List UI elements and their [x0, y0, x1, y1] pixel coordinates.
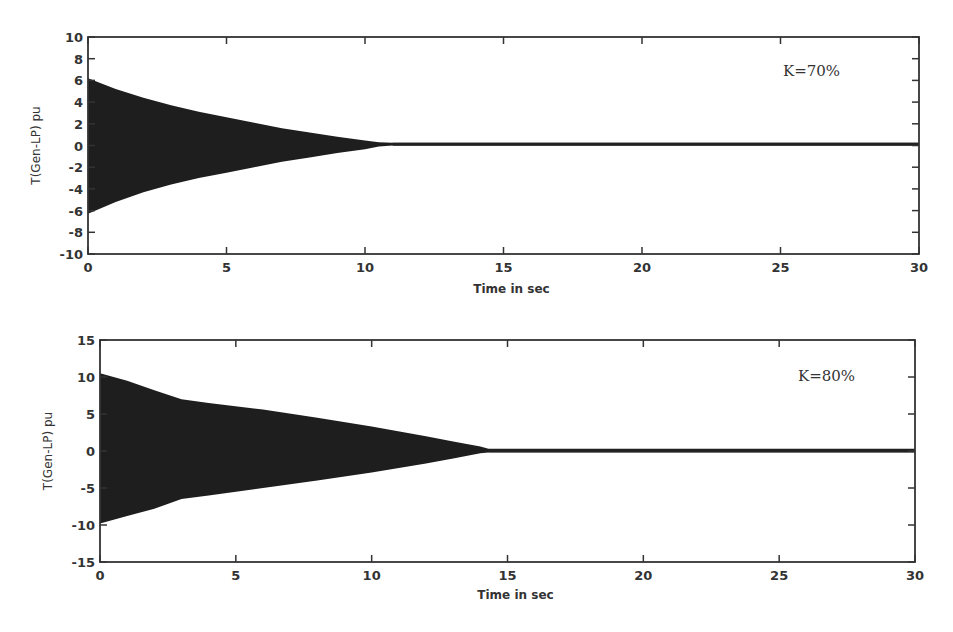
y-tick-label: -4: [69, 182, 83, 197]
x-tick-label: 30: [910, 260, 928, 275]
y-tick-label: 15: [77, 333, 95, 348]
x-tick-label: 5: [222, 260, 231, 275]
y-tick-label: -6: [69, 204, 83, 219]
y-tick-label: 10: [77, 370, 95, 385]
x-tick-label: 10: [363, 568, 381, 583]
y-tick-label: 2: [74, 117, 83, 132]
y-axis-label: T(Gen-LP) pu: [29, 106, 43, 185]
y-tick-label: 6: [74, 73, 83, 88]
x-tick-label: 20: [634, 568, 652, 583]
gain-annotation: K=80%: [798, 367, 855, 385]
y-tick-label: 5: [86, 407, 95, 422]
x-tick-label: 30: [906, 568, 924, 583]
chart-1: 0510152025301086420-2-4-6-8-10Time in se…: [29, 30, 928, 296]
x-tick-label: 5: [231, 568, 240, 583]
x-tick-label: 0: [83, 260, 92, 275]
y-tick-label: -10: [60, 247, 84, 262]
oscillation-envelope: [88, 78, 919, 214]
y-tick-label: 8: [74, 52, 83, 67]
y-tick-label: 0: [74, 139, 83, 154]
y-tick-label: 10: [65, 30, 83, 45]
x-tick-label: 20: [633, 260, 651, 275]
x-tick-label: 25: [770, 568, 788, 583]
y-tick-label: -5: [81, 481, 95, 496]
y-tick-label: -8: [69, 225, 83, 240]
x-tick-label: 15: [498, 568, 516, 583]
y-tick-label: 4: [74, 95, 83, 110]
x-axis-label: Time in sec: [477, 588, 553, 602]
figure-canvas: 0510152025301086420-2-4-6-8-10Time in se…: [0, 0, 953, 632]
oscillation-envelope: [100, 373, 915, 523]
y-tick-label: 0: [86, 444, 95, 459]
gain-annotation: K=70%: [783, 62, 840, 80]
chart-2: 051015202530151050-5-10-15Time in secT(G…: [41, 333, 924, 602]
y-tick-label: -15: [72, 555, 96, 570]
y-axis-label: T(Gen-LP) pu: [41, 412, 55, 491]
x-tick-label: 15: [494, 260, 512, 275]
x-tick-label: 25: [771, 260, 789, 275]
y-tick-label: -2: [69, 160, 83, 175]
x-tick-label: 0: [95, 568, 104, 583]
x-axis-label: Time in sec: [473, 282, 549, 296]
y-tick-label: -10: [72, 518, 96, 533]
x-tick-label: 10: [356, 260, 374, 275]
